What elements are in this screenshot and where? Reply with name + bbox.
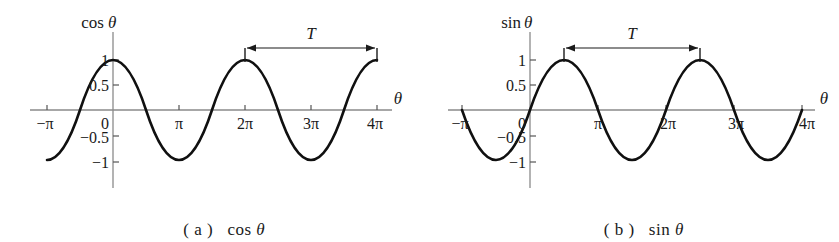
caption-function: cos xyxy=(227,220,251,239)
caption-gap xyxy=(635,220,649,239)
x-ticklabel-2pi: 2π xyxy=(237,115,253,132)
figure-container: T cos θ θ −π π 2π 3π 4π 1 0.5 0 −0.5 −1 … xyxy=(0,0,839,242)
caption-index: ( b ) xyxy=(604,220,635,239)
x-ticklabel-3pi: 3π xyxy=(728,115,744,132)
caption-variable: θ xyxy=(675,220,684,239)
caption-cos: ( a ) cos θ xyxy=(0,200,420,242)
sin-curve-bad xyxy=(462,43,666,184)
panel-sin: T sin θ θ −π π 2π 3π 4π 1 0.5 0 −0.5 −1 … xyxy=(420,0,839,242)
x-ticklabel-neg-pi: −π xyxy=(451,115,468,132)
period-label: T xyxy=(306,24,317,43)
y-ticklabel-neg1: −1 xyxy=(92,154,109,171)
y-axis-label-fn: cos xyxy=(81,13,104,32)
y-axis-label-var: θ xyxy=(108,13,116,32)
y-ticklabel-1: 1 xyxy=(101,52,109,69)
x-axis-label: θ xyxy=(820,89,828,108)
y-axis-label-var: θ xyxy=(524,13,532,32)
caption-gap xyxy=(213,220,227,239)
x-ticklabel-neg-pi: −π xyxy=(36,115,53,132)
caption-sin: ( b ) sin θ xyxy=(420,200,839,242)
x-ticklabel-2pi: 2π xyxy=(660,115,676,132)
x-ticklabel-pi: π xyxy=(594,115,602,132)
caption-variable: θ xyxy=(256,220,265,239)
x-ticklabel-4pi: 4π xyxy=(799,115,815,132)
y-ticklabel-neg0p5: −0.5 xyxy=(80,129,109,146)
x-ticklabel-3pi: 3π xyxy=(303,115,319,132)
x-ticklabel-pi: π xyxy=(175,115,183,132)
period-label: T xyxy=(627,24,638,43)
x-ticklabel-4pi: 4π xyxy=(367,115,383,132)
y-ticklabel-neg0p5: −0.5 xyxy=(497,129,526,146)
caption-function: sin xyxy=(649,220,670,239)
panel-cos: T cos θ θ −π π 2π 3π 4π 1 0.5 0 −0.5 −1 … xyxy=(0,0,420,242)
y-ticklabel-0p5: 0.5 xyxy=(506,77,526,94)
y-ticklabel-neg1: −1 xyxy=(509,154,526,171)
x-axis-label: θ xyxy=(394,89,402,108)
y-axis-label-fn: sin xyxy=(501,13,521,32)
period-arrow xyxy=(247,45,375,52)
y-ticklabel-1: 1 xyxy=(518,52,526,69)
y-ticklabel-0p5: 0.5 xyxy=(89,77,109,94)
caption-index: ( a ) xyxy=(183,220,213,239)
